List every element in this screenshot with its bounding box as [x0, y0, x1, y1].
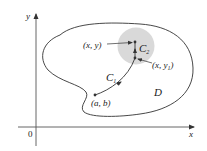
curve-c1	[95, 58, 135, 95]
line-integral-diagram: y x 0 (x, y) (x, y1) (a, b) C1 C2 D	[0, 0, 207, 151]
point-x-y	[134, 41, 137, 44]
curve-c1-label: C1	[106, 71, 116, 84]
x-axis-label: x	[188, 129, 193, 139]
y-axis-label: y	[25, 11, 30, 21]
point-x-y-label: (x, y)	[83, 40, 101, 50]
origin-label: 0	[28, 129, 33, 139]
region-d-label: D	[153, 86, 162, 98]
point-a-b-label: (a, b)	[91, 98, 111, 108]
point-x-y1	[134, 57, 137, 60]
point-x-y1-label: (x, y1)	[152, 60, 174, 71]
point-a-b	[94, 94, 97, 97]
